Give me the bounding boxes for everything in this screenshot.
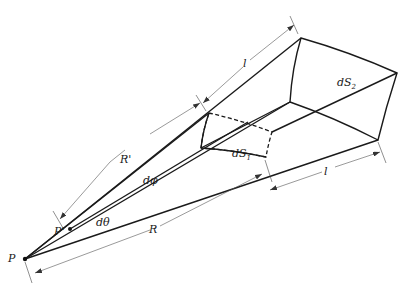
label-l-top: l <box>243 57 247 70</box>
label-dtheta: dθ <box>96 216 110 229</box>
label-P-prime: P' <box>53 225 64 238</box>
cone-rays <box>25 38 397 259</box>
label-dS1: dS1 <box>232 147 251 162</box>
label-dphi: dφ <box>143 174 158 187</box>
label-l-bottom: l <box>324 165 328 178</box>
label-dS2: dS2 <box>337 76 357 91</box>
dimension-l-top <box>203 16 298 103</box>
dimension-l-bottom <box>270 142 386 190</box>
solid-angle-diagram: P P' R' R l l dφ dθ dS1 dS2 <box>0 0 409 297</box>
label-P: P <box>7 252 16 265</box>
label-R: R <box>148 223 157 236</box>
point-P <box>23 257 27 261</box>
surface-dS2 <box>290 38 397 140</box>
label-R-prime: R' <box>119 153 131 166</box>
point-P-prime <box>68 227 72 231</box>
